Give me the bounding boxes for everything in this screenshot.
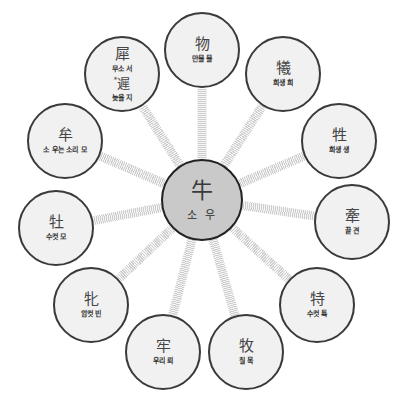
- connector-line: [98, 152, 166, 188]
- connector-line: [229, 224, 292, 282]
- center-node-ox: 牛 소 우: [161, 159, 243, 241]
- node-meaning: 무소 서: [112, 66, 132, 74]
- connector-line: [168, 239, 196, 317]
- node-meaning-secondary: 늦을 지: [112, 95, 132, 103]
- connector-line: [209, 238, 240, 317]
- node-meaning: 끌 견: [345, 228, 359, 236]
- node-hanja: 牝: [84, 291, 99, 308]
- node-meaning: 희생 생: [329, 147, 349, 155]
- node-meaning: 소 우는 소리 모: [43, 147, 86, 155]
- radial-diagram: 牛 소 우 物 만물 물 犧 희생 희 牲 희생 생 牽 끌 견 特 수컷 특 …: [0, 0, 402, 411]
- node-meaning: 수컷 특: [307, 311, 327, 319]
- connector-line: [242, 201, 315, 220]
- center-meaning: 소 우: [187, 210, 217, 222]
- node-bin: 牝 암컷 빈: [53, 267, 129, 343]
- connector-line: [220, 104, 266, 168]
- node-hanja: 牢: [156, 338, 171, 355]
- node-hui: 犧 희생 희: [245, 36, 321, 112]
- node-mul: 物 만물 물: [164, 12, 240, 88]
- node-hanja: 牽: [345, 208, 360, 225]
- node-meaning: 우리 뢰: [153, 358, 173, 366]
- node-mok: 牧 칠 목: [208, 314, 284, 390]
- center-hanja: 牛: [191, 178, 213, 203]
- connector-line: [238, 152, 306, 188]
- node-meaning: 희생 희: [273, 80, 293, 88]
- node-mo-male: 牡 수컷 모: [18, 190, 94, 266]
- secondary-hanja-text: 遲: [117, 76, 130, 91]
- node-meaning: 암컷 빈: [81, 311, 101, 319]
- node-hanja: 牧: [239, 338, 254, 355]
- node-hanja: 牲: [332, 127, 347, 144]
- node-hanja: 物: [195, 36, 210, 53]
- node-hanja: 特: [310, 291, 325, 308]
- node-meaning: 칠 목: [239, 358, 253, 366]
- node-mo-moo: 牟 소 우는 소리 모: [27, 103, 103, 179]
- node-gyeon: 牽 끌 견: [314, 184, 390, 260]
- node-hanja: 牟: [58, 127, 73, 144]
- node-roe: 牢 우리 뢰: [125, 314, 201, 390]
- node-hanja: 犀: [115, 46, 130, 63]
- node-meaning: 수컷 모: [46, 234, 66, 242]
- connector-line: [139, 104, 184, 168]
- node-hanja: 犧: [276, 60, 291, 77]
- connector-line: [92, 203, 162, 225]
- node-seo-ji: 犀 무소 서 *遲 늦을 지: [84, 36, 160, 112]
- node-saeng: 牲 희생 생: [301, 103, 377, 179]
- connector-line: [198, 88, 207, 159]
- node-hanja: 牡: [49, 214, 64, 231]
- node-hanja-secondary: *遲: [114, 77, 131, 91]
- node-teuk: 特 수컷 특: [279, 267, 355, 343]
- node-meaning: 만물 물: [192, 56, 212, 64]
- connector-line: [116, 225, 176, 282]
